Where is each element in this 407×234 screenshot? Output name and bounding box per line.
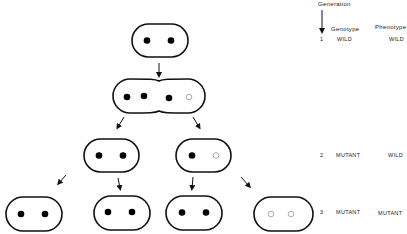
cell-gen3-3 (166, 196, 222, 230)
nucleoid-wild (96, 152, 103, 159)
generation-number: 2 (320, 152, 323, 158)
nucleoid-mutant (186, 94, 192, 100)
cell-outline (166, 196, 222, 230)
arrow-right (193, 117, 199, 127)
genotype-value: WILD (337, 36, 352, 42)
nucleoid-wild (18, 211, 25, 218)
generation-header: Generation (318, 1, 351, 7)
nucleoid-wild (166, 95, 173, 102)
cell-gen3-1 (6, 197, 62, 231)
cell-gen1-parent (132, 24, 188, 57)
phenotype-value: WILD (388, 152, 403, 158)
cell-outline (6, 197, 62, 231)
arrow (118, 178, 120, 188)
nucleoid-wild (124, 94, 131, 101)
arrow (192, 177, 193, 188)
cell-gen3-2 (94, 196, 150, 230)
cell-gen2-right (176, 139, 231, 172)
cell-outline (254, 197, 313, 231)
nucleoid-mutant (213, 153, 219, 159)
phenotype-value: WILD (389, 36, 404, 42)
nucleoid-wild (144, 37, 151, 44)
cell-outline (84, 139, 139, 172)
generation-number: 1 (320, 36, 323, 42)
cell-outline (94, 196, 150, 230)
cell-gen3-4 (254, 197, 313, 231)
nucleoid-wild (129, 209, 136, 216)
genotype-header: Genotype (331, 26, 359, 32)
nucleoid-wild (120, 152, 127, 159)
nucleoid-wild (189, 152, 196, 159)
arrow-left (118, 117, 124, 127)
cell-gen2-left (84, 139, 139, 172)
phenotype-header: Phenotype (375, 24, 406, 30)
nucleoid-wild (203, 209, 210, 216)
nucleoid-mutant (268, 211, 274, 217)
genotype-value: MUTANT (336, 209, 360, 215)
arrow (59, 175, 66, 183)
cell-outline (132, 24, 188, 57)
cell-gen1-dividing (113, 79, 205, 113)
arrow (241, 177, 249, 186)
nucleoid-wild (105, 209, 112, 216)
nucleoid-wild (179, 209, 186, 216)
nucleoid-wild (42, 211, 49, 218)
cell-outline (176, 139, 231, 172)
genotype-value: MUTANT (336, 152, 360, 158)
nucleoid-wild (168, 37, 175, 44)
generation-number: 3 (320, 209, 323, 215)
nucleoid-wild (141, 93, 148, 100)
phenotype-value: MUTANT (378, 210, 402, 216)
nucleoid-mutant (288, 211, 294, 217)
